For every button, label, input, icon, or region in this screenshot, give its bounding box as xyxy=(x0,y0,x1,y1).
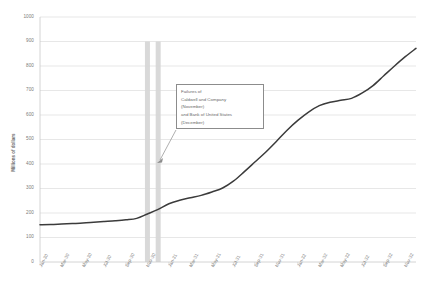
y-tick-label: 200 xyxy=(12,211,34,216)
annotation-line-5: (December) xyxy=(181,119,260,127)
y-tick-label: 700 xyxy=(12,88,34,93)
annotation-line-1: Failures of xyxy=(181,88,260,96)
event-band-dec-30 xyxy=(156,42,161,263)
y-tick-label: 300 xyxy=(12,186,34,191)
y-tick-label: 600 xyxy=(12,113,34,118)
annotation-box: Failures of Caldwell and Company (Novemb… xyxy=(176,84,264,129)
annotation-line-4: and Bank of United States xyxy=(181,111,260,119)
event-band-nov-30 xyxy=(145,42,150,263)
y-tick-label: 500 xyxy=(12,137,34,142)
y-tick-label: 1000 xyxy=(12,15,34,20)
annotation-line-3: (November) xyxy=(181,103,260,111)
data-series-line xyxy=(40,48,416,224)
y-tick-label: 800 xyxy=(12,64,34,69)
annotation-line-2: Caldwell and Company xyxy=(181,96,260,104)
chart-container: Millions of dollars 10009008007006005004… xyxy=(0,0,429,299)
event-bands xyxy=(145,42,161,263)
y-tick-label: 900 xyxy=(12,39,34,44)
y-tick-label: 100 xyxy=(12,235,34,240)
y-tick-label: 400 xyxy=(12,162,34,167)
y-tick-label: 0 xyxy=(12,260,34,265)
